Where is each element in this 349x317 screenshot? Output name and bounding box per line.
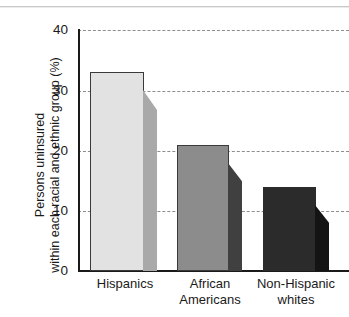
bar-african-americans-front: [177, 145, 229, 271]
plot-area: 40 30 20 10 0 Persons uninsured within e…: [0, 0, 349, 317]
bar-non-hispanic-whites-side: [315, 205, 329, 271]
bar-hispanics-front: [90, 72, 144, 271]
x-label-non-hispanic-whites: Non-Hispanic whites: [236, 276, 349, 307]
bar-chart-figure: 40 30 20 10 0 Persons uninsured within e…: [0, 0, 349, 317]
gridline-40: [78, 30, 349, 31]
y-axis-line: [78, 29, 80, 272]
bar-hispanics-side: [143, 90, 157, 271]
y-tick-label-40: 40: [28, 23, 68, 36]
bar-non-hispanic-whites-front: [263, 187, 316, 271]
y-axis-title: Persons uninsured within each racial and…: [33, 40, 63, 290]
bar-african-americans-side: [228, 163, 242, 271]
